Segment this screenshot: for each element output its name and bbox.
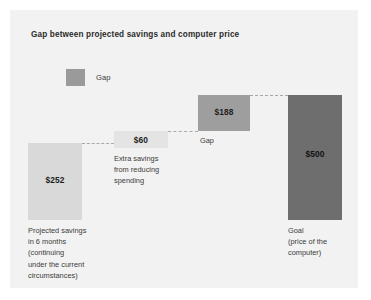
bar-projected-savings: $252 (28, 143, 82, 220)
caption-line: (price of the (288, 236, 360, 247)
caption-goal: Goal (price of the computer) (288, 225, 360, 259)
waterfall-plot-area: $252 $60 $188 $500 Projected savings in … (10, 10, 358, 288)
bar-goal: $500 (288, 95, 342, 220)
connector-line-extra-to-gap (168, 131, 198, 132)
connector-line-projected-to-extra (82, 143, 114, 144)
caption-line: circumstances) (28, 270, 112, 281)
chart-card: Gap between projected savings and comput… (10, 10, 358, 288)
connector-line-gap-to-goal (250, 95, 288, 96)
bar-value-projected-savings: $252 (28, 175, 82, 185)
bar-value-extra-savings: $60 (114, 135, 168, 145)
bar-gap: $188 (198, 95, 250, 131)
caption-projected-savings: Projected savings in 6 months (continuin… (28, 225, 112, 281)
caption-line: computer) (288, 247, 360, 258)
caption-line: spending (114, 175, 188, 186)
caption-line: (continuing (28, 247, 112, 258)
bar-extra-savings: $60 (114, 131, 168, 148)
caption-line: Projected savings (28, 225, 112, 236)
bar-value-gap: $188 (198, 107, 250, 117)
bar-value-goal: $500 (288, 149, 342, 159)
caption-line: from reducing (114, 164, 188, 175)
caption-extra-savings: Extra savings from reducing spending (114, 153, 188, 187)
caption-gap: Gap (200, 135, 260, 146)
caption-line: under the current (28, 259, 112, 270)
caption-line: in 6 months (28, 236, 112, 247)
caption-line: Gap (200, 135, 260, 146)
caption-line: Goal (288, 225, 360, 236)
caption-line: Extra savings (114, 153, 188, 164)
